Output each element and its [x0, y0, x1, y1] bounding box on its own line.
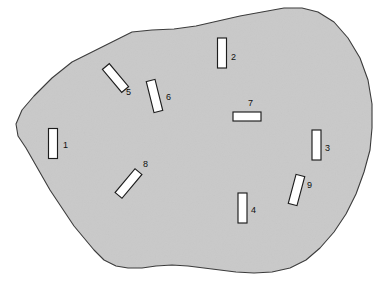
marker-label-1: 1	[63, 140, 68, 150]
marker-label-6: 6	[166, 92, 171, 102]
marker-rect-7[interactable]	[233, 112, 261, 121]
figure-container: 123456789	[0, 0, 382, 286]
marker-label-3: 3	[325, 143, 330, 153]
marker-label-7: 7	[248, 98, 253, 108]
marker-rect-2[interactable]	[218, 38, 227, 68]
region-map-diagram: 123456789	[0, 0, 382, 286]
marker-label-4: 4	[251, 205, 256, 215]
marker-label-8: 8	[143, 159, 148, 169]
marker-rect-3[interactable]	[312, 130, 321, 160]
marker-label-5: 5	[126, 87, 131, 97]
marker-rect-4[interactable]	[238, 193, 247, 223]
marker-rect-1[interactable]	[49, 129, 58, 159]
marker-label-9: 9	[307, 180, 312, 190]
marker-label-2: 2	[231, 52, 236, 62]
